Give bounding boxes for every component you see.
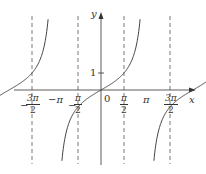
tangent-graph: y x 1 0 −π π − 3π 2 − π 2 π 2 3π 2 bbox=[0, 0, 206, 174]
x-tick-label-neg-pi-2: π 2 bbox=[74, 94, 82, 115]
y-axis-label: y bbox=[91, 9, 97, 19]
x-axis-label: x bbox=[189, 95, 195, 105]
x-tick-label-pi-2: π 2 bbox=[120, 94, 128, 115]
x-tick-label-pi: π bbox=[143, 95, 150, 105]
y-tick-label-1: 1 bbox=[90, 68, 96, 78]
y-axis-arrow-icon bbox=[99, 12, 104, 19]
plot-area bbox=[0, 0, 206, 174]
x-tick-label-neg-3pi-2: 3π 2 bbox=[26, 94, 40, 115]
x-tick-label-3pi-2: 3π 2 bbox=[164, 94, 178, 115]
x-tick-label-neg-pi: −π bbox=[48, 95, 63, 105]
origin-label: 0 bbox=[104, 94, 110, 104]
